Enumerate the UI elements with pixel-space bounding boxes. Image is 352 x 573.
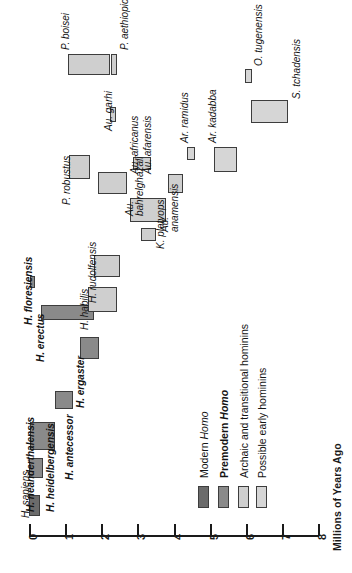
axis-tick-label-2: 2 <box>99 534 111 540</box>
axis-tick-label-7: 7 <box>280 534 292 540</box>
legend-text-premodern: Premodern <box>218 420 230 478</box>
species-label-ar-kadabba: Ar. kadabba <box>208 89 219 143</box>
bar-k-platyops[interactable] <box>141 228 156 241</box>
axis-tick-label-3: 3 <box>135 534 147 540</box>
legend-label-premodern-homo: Premodern Homo <box>218 390 230 478</box>
species-label-h-floresiensis: H. floresiensis <box>24 257 35 325</box>
bar-ar-ramidus[interactable] <box>187 147 195 160</box>
species-label-au-bahrelghazali-line2: bahrelghazali <box>135 157 146 217</box>
species-label-s-tchadensis: S. tchadensis <box>292 39 303 99</box>
species-label-h-erectus: H. erectus <box>36 314 47 362</box>
bar-o-tugenensis[interactable] <box>245 69 252 83</box>
bar-ar-kadabba[interactable] <box>214 147 237 172</box>
axis-tick-label-1: 1 <box>63 534 75 540</box>
bar-p-boisei[interactable] <box>68 54 110 75</box>
legend-swatch-modern-homo[interactable] <box>198 486 209 508</box>
species-label-o-tugenensis: O. tugenensis <box>254 4 265 66</box>
axis-title: Millions of Years Ago <box>331 443 343 551</box>
species-label-h-rudolfensis: H. rudolfensis <box>88 242 99 303</box>
bar-au-africanus[interactable] <box>98 172 127 194</box>
legend-text-premodern-genus: Homo <box>218 390 230 420</box>
legend-swatch-possible-early[interactable] <box>256 486 267 508</box>
species-label-au-anamensis-line2: anamensis <box>170 184 181 232</box>
species-label-p-boisei: P. boisei <box>61 13 72 50</box>
legend-text-modern: Modern <box>198 439 210 478</box>
species-label-p-robustus: P. robustus <box>62 156 73 205</box>
axis-tick-label-5: 5 <box>208 534 220 540</box>
bar-p-aethiopicus[interactable] <box>111 54 117 75</box>
axis-tick-label-4: 4 <box>172 534 184 540</box>
legend-label-modern-homo: Modern Homo <box>198 411 210 478</box>
axis-tick-label-6: 6 <box>244 534 256 540</box>
legend-label-possible-early: Possible early hominins <box>256 368 268 478</box>
bar-h-antecessor[interactable] <box>55 391 73 409</box>
species-label-ar-ramidus: Ar. ramidus <box>180 92 191 143</box>
species-label-h-neanderthalensis: H. neanderthalensis <box>26 417 37 512</box>
legend-text-modern-genus: Homo <box>198 411 210 439</box>
bar-s-tchadensis[interactable] <box>251 100 288 123</box>
species-label-h-heidelbergensis: H. heidelbergensis <box>46 423 57 512</box>
axis-tick-label-0: 0 <box>27 534 39 540</box>
legend-label-archaic-transitional: Archaic and transitional hominins <box>238 324 250 478</box>
legend-swatch-premodern-homo[interactable] <box>218 486 229 508</box>
species-label-h-antecessor: H. antecessor <box>65 414 76 480</box>
species-label-h-ergaster: H. ergaster <box>76 356 87 408</box>
species-label-au-garhi: Au. garhi <box>104 91 115 131</box>
legend-swatch-archaic-transitional[interactable] <box>238 486 249 508</box>
species-label-p-aethiopicus: P. aethiopicus <box>120 0 131 50</box>
hominin-timeline-chart: H. sapiens H. neanderthalensis H. heidel… <box>0 0 352 573</box>
axis-tick-label-8: 8 <box>316 534 328 540</box>
